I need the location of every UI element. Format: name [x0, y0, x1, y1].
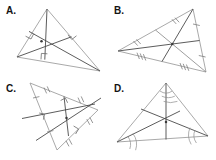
- triangle-a-altitudes: [17, 9, 100, 71]
- panel-d-angle-bisectors: D.: [108, 78, 216, 158]
- triangle-c-sides: [30, 83, 98, 150]
- panel-c-perpendicular-bisectors: C.: [0, 78, 108, 158]
- angle-arc-marks-d: [128, 91, 197, 150]
- panel-a-diagram: [0, 0, 108, 80]
- incenter-point-d: [165, 121, 168, 124]
- congruence-ticks-c: [33, 86, 93, 146]
- centroid-point-b: [171, 43, 174, 46]
- triangle-b-sides: [118, 9, 206, 72]
- panel-b-medians: B.: [108, 0, 216, 80]
- panel-b-diagram: [108, 0, 216, 80]
- panel-a-altitudes: A.: [0, 0, 108, 80]
- orthocenter-point-a: [40, 40, 43, 43]
- triangle-b-medians: [118, 9, 206, 72]
- panel-d-diagram: [108, 78, 216, 158]
- triangle-centers-figure: A. B.: [0, 0, 216, 160]
- circumcenter-point-c: [65, 117, 68, 120]
- triangle-a-sides: [17, 9, 100, 71]
- panel-c-diagram: [0, 78, 108, 158]
